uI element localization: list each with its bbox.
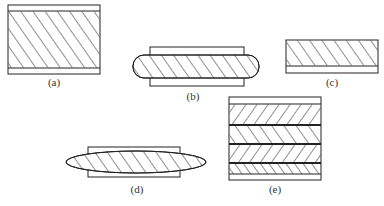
- label-c: (c): [317, 76, 347, 88]
- panel-a: [8, 5, 100, 74]
- panel-b: [133, 47, 259, 86]
- composite-laminate-diagram: [0, 0, 384, 206]
- label-d: (d): [122, 183, 152, 195]
- label-b: (b): [178, 90, 208, 102]
- panel-d: [66, 147, 206, 177]
- label-a: (a): [39, 76, 69, 88]
- panel-c: [286, 40, 378, 73]
- label-e: (e): [260, 183, 290, 195]
- panel-e: [229, 97, 321, 180]
